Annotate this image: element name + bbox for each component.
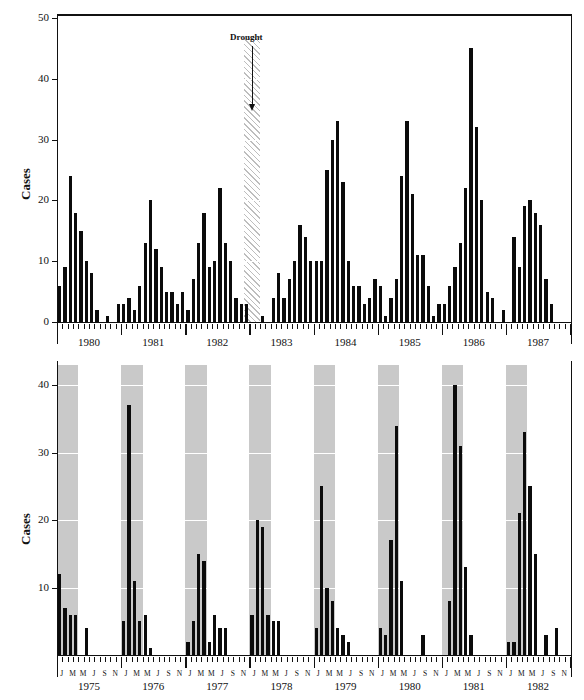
x-axis-month-tick xyxy=(543,657,544,662)
bar xyxy=(379,628,382,655)
gridline xyxy=(57,140,570,141)
bar xyxy=(469,48,472,322)
bar xyxy=(427,286,430,322)
x-axis-month-tick xyxy=(485,657,486,662)
x-axis-month-tick xyxy=(212,657,213,662)
x-axis-month-tick xyxy=(367,324,368,329)
y-axis-tick xyxy=(52,453,57,454)
x-axis-month-tick xyxy=(137,657,138,662)
bar xyxy=(469,635,472,655)
x-axis-month-tick xyxy=(420,657,421,662)
bar xyxy=(63,267,66,322)
bar xyxy=(90,273,93,322)
x-axis-month-tick xyxy=(367,657,368,662)
x-axis-month-tick xyxy=(415,324,416,329)
bar xyxy=(534,554,537,655)
x-axis-month-tick xyxy=(228,324,229,329)
y-axis-tick-label: 40 xyxy=(19,73,49,84)
x-axis-month-tick xyxy=(148,324,149,329)
bar xyxy=(127,405,130,655)
x-axis-month-tick xyxy=(132,324,133,329)
x-axis-month-tick xyxy=(404,657,405,662)
x-axis-month-tick xyxy=(538,657,539,662)
bar xyxy=(122,621,125,655)
bar xyxy=(416,255,419,322)
x-axis-month-tick xyxy=(201,324,202,329)
x-axis-month-tick xyxy=(330,657,331,662)
x-axis-year-label: 1986 xyxy=(449,336,499,348)
x-axis-month-tick xyxy=(420,324,421,329)
bar xyxy=(133,581,136,655)
bar xyxy=(74,213,77,322)
bar xyxy=(395,279,398,322)
y-axis-tick-label: 50 xyxy=(19,12,49,23)
x-axis-month-tick xyxy=(565,657,566,662)
bar xyxy=(69,176,72,322)
x-axis-month-tick xyxy=(281,657,282,662)
x-axis-month-tick xyxy=(474,324,475,329)
y-axis-tick xyxy=(52,588,57,589)
drought-arrow-shaft xyxy=(252,46,253,106)
bar xyxy=(69,615,72,655)
x-axis-year-label: 1982 xyxy=(513,680,563,692)
x-axis-month-tick xyxy=(308,657,309,662)
x-axis-month-tick xyxy=(490,324,491,329)
bar xyxy=(149,648,152,655)
bar xyxy=(261,527,264,655)
x-axis-month-tick xyxy=(388,324,389,329)
y-axis-tick-label: 10 xyxy=(19,255,49,266)
x-axis-month-tick xyxy=(84,324,85,329)
bar xyxy=(389,540,392,655)
bar xyxy=(144,243,147,322)
bar xyxy=(384,635,387,655)
x-axis-month-tick xyxy=(233,324,234,329)
x-axis-month-tick xyxy=(126,324,127,329)
x-axis-month-tick xyxy=(495,657,496,662)
x-axis-month-tick xyxy=(143,657,144,662)
x-axis-year-label: 1980 xyxy=(64,336,114,348)
panel-washington: Washington, D. C. Cases 10203040JMMJSNJM… xyxy=(0,355,584,700)
bar xyxy=(186,642,189,655)
x-axis-month-tick xyxy=(362,657,363,662)
x-axis-year-label: 1983 xyxy=(256,336,306,348)
x-axis-month-tick xyxy=(260,657,261,662)
x-axis-month-tick xyxy=(527,657,528,662)
x-axis-month-tick xyxy=(495,324,496,329)
bar xyxy=(459,446,462,655)
bar xyxy=(288,279,291,322)
bar xyxy=(400,581,403,655)
bar xyxy=(234,298,237,322)
bar xyxy=(181,292,184,322)
x-axis-month-tick xyxy=(404,324,405,329)
x-axis-month-tick xyxy=(458,324,459,329)
bar xyxy=(555,628,558,655)
x-axis-month-tick xyxy=(410,657,411,662)
x-axis-year-separator xyxy=(57,324,58,335)
x-axis-month-tick xyxy=(105,657,106,662)
bar xyxy=(512,237,515,322)
x-axis-month-tick xyxy=(159,657,160,662)
x-axis-month-tick xyxy=(126,657,127,662)
x-axis-month-tick xyxy=(554,657,555,662)
x-axis-month-tick xyxy=(223,657,224,662)
bar xyxy=(218,628,221,655)
y-axis-tick xyxy=(52,200,57,201)
x-axis-month-tick xyxy=(223,324,224,329)
x-axis-month-tick xyxy=(239,657,240,662)
x-axis-month-tick xyxy=(62,324,63,329)
x-axis-month-tick xyxy=(319,324,320,329)
x-axis-month-tick xyxy=(346,657,347,662)
x-axis-month-tick xyxy=(324,324,325,329)
bar xyxy=(518,513,521,655)
gridline xyxy=(57,79,570,80)
plot-area-washington xyxy=(57,365,570,655)
x-axis-month-tick xyxy=(340,657,341,662)
bar xyxy=(304,237,307,322)
bar xyxy=(464,188,467,322)
x-axis-month-tick xyxy=(549,657,550,662)
x-axis-month-tick xyxy=(549,324,550,329)
bar xyxy=(202,213,205,322)
x-axis-year-label: 1987 xyxy=(513,336,563,348)
x-axis-month-tick xyxy=(533,657,534,662)
y-axis-tick xyxy=(52,261,57,262)
